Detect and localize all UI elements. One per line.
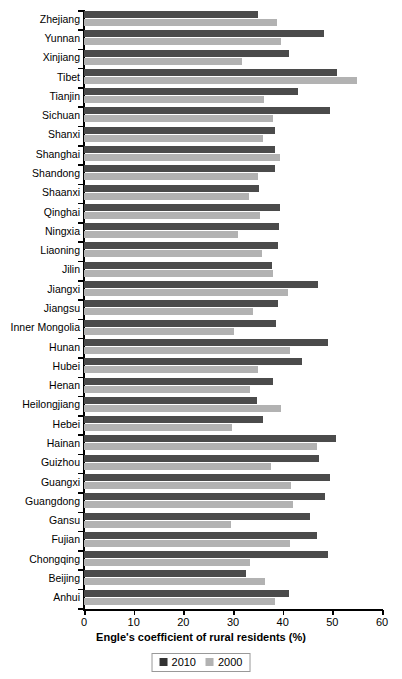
bar-2000[interactable] (84, 96, 264, 103)
bar-2000[interactable] (84, 598, 275, 605)
bar-2000[interactable] (84, 250, 262, 257)
bar-2010[interactable] (84, 242, 278, 249)
x-axis-title: Engle's coefficient of rural residents (… (0, 631, 402, 643)
bar-2000[interactable] (84, 58, 242, 65)
bar-2010[interactable] (84, 50, 289, 57)
bar-2010[interactable] (84, 165, 275, 172)
y-axis-tick-label: Shanxi (2, 129, 80, 140)
bar-2010[interactable] (84, 358, 302, 365)
bar-group (84, 357, 382, 376)
bar-2000[interactable] (84, 443, 317, 450)
y-axis-tick-label: Liaoning (2, 245, 80, 256)
bar-group (84, 222, 382, 241)
bar-2010[interactable] (84, 262, 272, 269)
y-axis-tick-label: Anhui (2, 592, 80, 603)
bar-2010[interactable] (84, 320, 276, 327)
bar-group (84, 49, 382, 68)
bar-2010[interactable] (84, 474, 330, 481)
bar-2000[interactable] (84, 540, 290, 547)
bar-2000[interactable] (84, 115, 273, 122)
bar-2000[interactable] (84, 386, 250, 393)
y-axis-tick-label: Shanghai (2, 149, 80, 160)
bar-2000[interactable] (84, 521, 231, 528)
legend-swatch-2010-icon (160, 658, 168, 666)
bar-2000[interactable] (84, 482, 291, 489)
bar-2010[interactable] (84, 300, 278, 307)
y-axis-tick-label: Hainan (2, 438, 80, 449)
bar-group (84, 550, 382, 569)
bar-2010[interactable] (84, 185, 259, 192)
bar-2000[interactable] (84, 578, 265, 585)
bar-2010[interactable] (84, 88, 298, 95)
bar-2000[interactable] (84, 270, 273, 277)
bar-2010[interactable] (84, 513, 310, 520)
bar-2010[interactable] (84, 532, 317, 539)
bar-2000[interactable] (84, 328, 234, 335)
bar-2010[interactable] (84, 127, 275, 134)
bar-2010[interactable] (84, 69, 337, 76)
bar-group (84, 145, 382, 164)
bar-2000[interactable] (84, 193, 249, 200)
y-axis-tick-label: Heilongjiang (2, 399, 80, 410)
x-axis-tick (134, 610, 136, 615)
bar-2010[interactable] (84, 30, 324, 37)
bar-2000[interactable] (84, 77, 357, 84)
bar-2010[interactable] (84, 378, 273, 385)
bar-group (84, 492, 382, 511)
bar-2000[interactable] (84, 19, 277, 26)
bar-2010[interactable] (84, 435, 336, 442)
bar-2000[interactable] (84, 289, 288, 296)
bar-group (84, 319, 382, 338)
bar-2000[interactable] (84, 405, 281, 412)
bar-2000[interactable] (84, 135, 263, 142)
bar-group (84, 531, 382, 550)
bar-group (84, 338, 382, 357)
bar-2010[interactable] (84, 397, 257, 404)
y-axis-tick-label: Tibet (2, 72, 80, 83)
bar-2000[interactable] (84, 231, 238, 238)
bar-2000[interactable] (84, 559, 250, 566)
y-axis-tick-label: Yunnan (2, 33, 80, 44)
bar-2010[interactable] (84, 107, 330, 114)
y-axis-tick-label: Xinjiang (2, 52, 80, 63)
y-axis-tick-label: Henan (2, 380, 80, 391)
bar-2010[interactable] (84, 223, 279, 230)
bar-2000[interactable] (84, 173, 258, 180)
bar-2010[interactable] (84, 11, 258, 18)
bar-2000[interactable] (84, 212, 260, 219)
y-axis-tick-label: Gansu (2, 515, 80, 526)
bar-2010[interactable] (84, 416, 263, 423)
y-axis-tick-label: Zhejiang (2, 14, 80, 25)
bar-2000[interactable] (84, 38, 281, 45)
bar-group (84, 415, 382, 434)
bar-2010[interactable] (84, 146, 275, 153)
x-axis-tick (183, 610, 185, 615)
bar-2010[interactable] (84, 339, 328, 346)
bar-group (84, 377, 382, 396)
bar-group (84, 87, 382, 106)
y-axis-tick-label: Tianjin (2, 91, 80, 102)
bar-2000[interactable] (84, 501, 293, 508)
x-axis-tick (84, 610, 86, 615)
bar-2000[interactable] (84, 366, 258, 373)
bar-2000[interactable] (84, 154, 280, 161)
plot-area (84, 10, 382, 608)
bar-2010[interactable] (84, 493, 325, 500)
legend-item-2000[interactable]: 2000 (206, 656, 242, 668)
bar-2010[interactable] (84, 551, 328, 558)
bar-2000[interactable] (84, 463, 271, 470)
bar-2010[interactable] (84, 281, 318, 288)
bar-2000[interactable] (84, 308, 253, 315)
x-axis-tick-label: 60 (362, 616, 402, 628)
bar-2010[interactable] (84, 455, 319, 462)
bar-group (84, 299, 382, 318)
bar-2010[interactable] (84, 590, 289, 597)
legend-swatch-2000-icon (206, 658, 214, 666)
bar-2000[interactable] (84, 347, 290, 354)
bar-2010[interactable] (84, 570, 246, 577)
x-axis-tick (283, 610, 285, 615)
legend-item-2010[interactable]: 2010 (160, 656, 196, 668)
bar-group (84, 261, 382, 280)
bar-2010[interactable] (84, 204, 280, 211)
bar-2000[interactable] (84, 424, 232, 431)
